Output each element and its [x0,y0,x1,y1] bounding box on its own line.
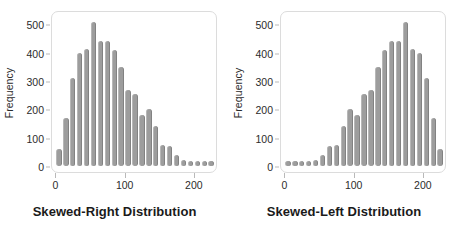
histogram-bar [174,155,179,166]
x-tick-mark [194,173,195,178]
x-tick-mark [125,173,126,178]
y-tick-label: 500 [26,19,44,31]
histogram-bar [396,41,401,166]
histogram-bar [437,149,442,166]
histogram-bar [417,53,422,166]
histogram-bar [410,49,415,166]
x-tick-label: 200 [185,179,203,191]
histogram-bar [368,90,373,166]
plot-area [51,11,217,173]
histogram-bar [292,161,297,166]
bar-series [281,12,445,172]
panel-caption: Skewed-Right Distribution [0,204,229,219]
y-tick-label: 300 [255,76,273,88]
x-tick-label: 100 [345,179,363,191]
x-tick-mark [55,173,56,178]
histogram-bar [195,161,200,166]
y-axis-ticks: 0100200300400500 [14,12,50,172]
y-tick-mark [275,138,279,139]
histogram-bar [202,161,207,166]
histogram-bar [313,160,318,166]
histogram-bar [91,22,96,166]
panel-skewed-left: Frequency 0100200300400500 0100200 Skewe… [229,0,459,240]
x-tick-label: 100 [116,179,134,191]
x-axis-ticks: 0100200 [51,173,217,195]
x-tick-label: 0 [282,179,288,191]
panel-skewed-right: Frequency 0100200300400500 0100200 Skewe… [0,0,229,240]
y-tick-mark [46,138,50,139]
histogram-bar [167,146,172,166]
histogram-bar [56,149,61,166]
histogram-bar [382,50,387,166]
histogram-bar [320,155,325,166]
x-tick-mark [354,173,355,178]
y-tick-mark [275,25,279,26]
histogram-bar [105,41,110,166]
x-tick-label: 200 [414,179,432,191]
histogram-bar [112,50,117,166]
y-tick-mark [46,167,50,168]
histogram-bar [139,115,144,166]
y-tick-mark [46,53,50,54]
x-tick-mark [423,173,424,178]
y-tick-label: 200 [26,104,44,116]
histogram-bar [403,22,408,166]
plot-area [280,11,446,173]
histogram-bar [375,67,380,166]
histogram-bar [327,146,332,166]
histogram-bar [347,109,352,166]
histogram-bar [188,161,193,166]
y-tick-label: 0 [38,161,44,173]
histogram-bar [354,115,359,166]
histogram-bar [153,126,158,166]
histogram-bar [341,126,346,166]
histogram-figure: Frequency 0100200300400500 0100200 Skewe… [0,0,459,240]
histogram-bar [285,161,290,166]
histogram-bar [299,161,304,166]
histogram-bar [98,41,103,166]
panel-caption: Skewed-Left Distribution [229,204,459,219]
y-tick-label: 0 [267,161,273,173]
y-tick-mark [275,110,279,111]
x-axis-ticks: 0100200 [280,173,446,195]
y-tick-label: 400 [26,48,44,60]
histogram-bar [431,118,436,166]
y-tick-mark [275,53,279,54]
histogram-bar [125,90,130,166]
histogram-bar [424,78,429,166]
y-tick-label: 200 [255,104,273,116]
histogram-bar [70,78,75,166]
y-tick-mark [46,25,50,26]
y-tick-mark [46,82,50,83]
histogram-bar [77,53,82,166]
y-tick-label: 300 [26,76,44,88]
histogram-bar [334,145,339,166]
y-tick-label: 100 [255,133,273,145]
x-tick-label: 0 [53,179,59,191]
bar-series [52,12,216,172]
y-tick-label: 100 [26,133,44,145]
y-tick-mark [275,82,279,83]
histogram-bar [160,145,165,166]
histogram-bar [132,94,137,166]
histogram-bar [146,109,151,166]
histogram-bar [118,67,123,166]
histogram-bar [63,118,68,166]
y-tick-label: 500 [255,19,273,31]
y-tick-mark [275,167,279,168]
histogram-bar [389,41,394,166]
x-tick-mark [284,173,285,178]
histogram-bar [361,94,366,166]
y-tick-mark [46,110,50,111]
y-axis-ticks: 0100200300400500 [243,12,279,172]
y-tick-label: 400 [255,48,273,60]
histogram-bar [84,49,89,166]
histogram-bar [181,160,186,166]
histogram-bar [306,161,311,166]
histogram-bar [208,161,213,166]
